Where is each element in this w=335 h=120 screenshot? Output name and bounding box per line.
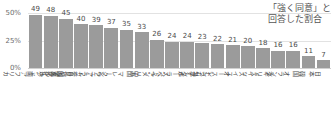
bar-rect bbox=[104, 28, 118, 68]
bar-value-label: 16 bbox=[289, 42, 298, 49]
bar-value-label: 18 bbox=[258, 40, 267, 47]
x-axis-category: 中国 bbox=[135, 70, 149, 118]
x-axis-category: サウジアラビア bbox=[74, 70, 88, 118]
x-axis-category: カナダ bbox=[195, 70, 209, 118]
bar-item: 16 bbox=[271, 8, 285, 68]
bar-value-label: 16 bbox=[274, 42, 283, 49]
x-axis-category-label: 韓国 bbox=[293, 70, 305, 77]
bar-value-label: 20 bbox=[243, 38, 252, 45]
bar-rect bbox=[195, 43, 209, 68]
bar-rect bbox=[256, 48, 270, 68]
y-axis-tick-label: 50% bbox=[0, 10, 21, 17]
bar-rect bbox=[120, 30, 134, 68]
bar-rect bbox=[135, 32, 149, 68]
x-axis-category: 南アフリカ bbox=[29, 70, 43, 118]
bar-rect bbox=[211, 44, 225, 68]
bar-chart: 「強く同意」と 回答した割合 0%25%50% 4948454039373533… bbox=[0, 0, 335, 120]
bar-item: 37 bbox=[104, 8, 118, 68]
x-axis-category: マレーシア bbox=[120, 70, 134, 118]
bar-item: 24 bbox=[180, 8, 194, 68]
bar-item: 24 bbox=[165, 8, 179, 68]
x-axis-category: ポーランド bbox=[180, 70, 194, 118]
x-axis-category-label: 日本 bbox=[308, 70, 320, 77]
bar-item: 21 bbox=[226, 8, 240, 68]
bar-rect bbox=[59, 19, 73, 68]
bar-item: 49 bbox=[29, 8, 43, 68]
bar-item: 20 bbox=[241, 8, 255, 68]
x-axis-category: カタール bbox=[59, 70, 73, 118]
bar-item: 16 bbox=[286, 8, 300, 68]
bar-value-label: 24 bbox=[168, 33, 177, 40]
x-axis-category: イギリス bbox=[271, 70, 285, 118]
bar-value-label: 48 bbox=[46, 7, 55, 14]
x-axis-category: 日本 bbox=[317, 70, 331, 118]
x-axis-category-label: マレーシア bbox=[94, 70, 123, 77]
bar-item: 35 bbox=[120, 8, 134, 68]
bar-item: 26 bbox=[150, 8, 164, 68]
bar-item: 45 bbox=[59, 8, 73, 68]
x-axis-category: 韓国 bbox=[302, 70, 316, 118]
x-axis-category: シンガポール bbox=[211, 70, 225, 118]
bar-item: 23 bbox=[195, 8, 209, 68]
x-axis-category: アラブ首長国連邦 bbox=[89, 70, 103, 118]
bar-value-label: 23 bbox=[198, 34, 207, 41]
bar-value-label: 24 bbox=[183, 33, 192, 40]
bar-item: 39 bbox=[89, 8, 103, 68]
bar-rect bbox=[180, 42, 194, 68]
bar-item: 7 bbox=[317, 8, 331, 68]
bar-value-label: 11 bbox=[304, 48, 313, 55]
x-axis-category: スイス bbox=[241, 70, 255, 118]
bar-item: 33 bbox=[135, 8, 149, 68]
bar-rect bbox=[302, 56, 316, 68]
x-axis-category: インド bbox=[44, 70, 58, 118]
bar-rect bbox=[89, 25, 103, 68]
x-axis-category: ドイツ bbox=[256, 70, 270, 118]
x-axis-category: クウェート bbox=[104, 70, 118, 118]
bar-value-label: 35 bbox=[122, 21, 131, 28]
bar-item: 11 bbox=[302, 8, 316, 68]
x-axis-category-labels: 南アフリカインドカタールサウジアラビアアラブ首長国連邦クウェートマレーシア中国ア… bbox=[28, 70, 331, 118]
bar-rect bbox=[241, 46, 255, 68]
bar-item: 48 bbox=[44, 8, 58, 68]
gridline-0 bbox=[28, 68, 331, 69]
plot-area: 0%25%50% 4948454039373533262424232221201… bbox=[28, 8, 331, 68]
bar-rect bbox=[317, 60, 331, 68]
bar-value-label: 7 bbox=[321, 52, 325, 59]
bar-value-label: 26 bbox=[152, 31, 161, 38]
bar-rect bbox=[271, 51, 285, 68]
bar-rect bbox=[165, 42, 179, 68]
x-axis-category-label: 南アフリカ bbox=[3, 70, 32, 77]
x-axis-category: アメリカ bbox=[150, 70, 164, 118]
bar-rect bbox=[150, 40, 164, 68]
x-axis-category-label: オランダ bbox=[267, 70, 290, 77]
bar-value-label: 33 bbox=[137, 24, 146, 31]
bar-series: 494845403937353326242423222120181616117 bbox=[28, 8, 331, 68]
bar-value-label: 39 bbox=[92, 17, 101, 24]
bar-item: 40 bbox=[74, 8, 88, 68]
bar-value-label: 22 bbox=[213, 36, 222, 43]
bar-value-label: 21 bbox=[228, 37, 237, 44]
bar-item: 18 bbox=[256, 8, 270, 68]
x-axis-category-label: オーストラリア bbox=[189, 70, 230, 77]
bar-rect bbox=[286, 51, 300, 68]
bar-value-label: 37 bbox=[107, 19, 116, 26]
bar-item: 22 bbox=[211, 8, 225, 68]
bar-rect bbox=[74, 24, 88, 68]
bar-value-label: 45 bbox=[61, 10, 70, 17]
y-axis-tick-label: 25% bbox=[0, 38, 21, 45]
x-axis-category: オーストラリア bbox=[226, 70, 240, 118]
bar-rect bbox=[44, 16, 58, 68]
bar-rect bbox=[226, 45, 240, 68]
bar-value-label: 40 bbox=[77, 16, 86, 23]
bar-rect bbox=[29, 15, 43, 68]
bar-value-label: 49 bbox=[31, 6, 40, 13]
x-axis-category: オランダ bbox=[286, 70, 300, 118]
x-axis-category: スペイン bbox=[165, 70, 179, 118]
